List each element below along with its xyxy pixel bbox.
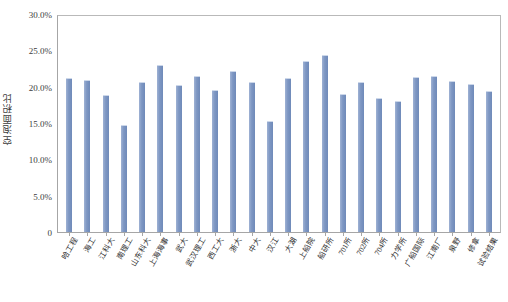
x-axis-tick-labels: 哈工程海工江科大南理工山东科大上海海事武大武汉理工西工大浙大中大汉江大湖上船院船… bbox=[57, 236, 501, 302]
bars-layer bbox=[58, 16, 500, 232]
bar-slot bbox=[188, 16, 206, 232]
bar-slot bbox=[151, 16, 169, 232]
bar-slot bbox=[224, 16, 242, 232]
bar bbox=[84, 80, 90, 232]
bar-slot bbox=[60, 16, 78, 232]
bar bbox=[66, 78, 72, 232]
bar-slot bbox=[170, 16, 188, 232]
bar bbox=[468, 84, 474, 232]
bar bbox=[194, 76, 200, 232]
bar-slot bbox=[243, 16, 261, 232]
bar-slot bbox=[261, 16, 279, 232]
y-axis-tick-label: 10.0% bbox=[29, 155, 52, 165]
bar bbox=[139, 82, 145, 232]
bar bbox=[157, 65, 163, 232]
bar-slot bbox=[316, 16, 334, 232]
bar bbox=[413, 77, 419, 232]
bar bbox=[486, 91, 492, 232]
bar bbox=[285, 78, 291, 232]
bar bbox=[212, 90, 218, 232]
bar-slot bbox=[297, 16, 315, 232]
y-axis-title-text: 空泡面积比 bbox=[1, 92, 15, 145]
bar-slot bbox=[78, 16, 96, 232]
bar bbox=[249, 82, 255, 232]
bar bbox=[449, 81, 455, 232]
bar bbox=[267, 121, 273, 232]
bar-slot bbox=[389, 16, 407, 232]
y-axis-tick-label: 30.0% bbox=[29, 10, 52, 20]
plot-area bbox=[57, 15, 501, 233]
y-axis-tick-labels: 30.0%25.0%20.0%15.0%10.0%5.0%0 bbox=[14, 0, 56, 240]
bar-slot bbox=[115, 16, 133, 232]
bar-slot bbox=[443, 16, 461, 232]
bar bbox=[103, 95, 109, 232]
bar-slot bbox=[206, 16, 224, 232]
bar-slot bbox=[97, 16, 115, 232]
bar bbox=[121, 125, 127, 232]
bar-slot bbox=[352, 16, 370, 232]
bar-slot bbox=[279, 16, 297, 232]
bar bbox=[395, 101, 401, 232]
y-axis-tick-label: 0 bbox=[48, 228, 53, 238]
bar bbox=[358, 82, 364, 232]
bar-slot bbox=[425, 16, 443, 232]
bar bbox=[322, 55, 328, 232]
bar-chart: 空泡面积比 30.0%25.0%20.0%15.0%10.0%5.0%0 哈工程… bbox=[0, 0, 508, 302]
bar bbox=[303, 61, 309, 232]
bar-slot bbox=[480, 16, 498, 232]
y-axis-tick-label: 20.0% bbox=[29, 83, 52, 93]
bar-slot bbox=[133, 16, 151, 232]
bar bbox=[340, 94, 346, 232]
bar-slot bbox=[370, 16, 388, 232]
y-axis-tick-label: 15.0% bbox=[29, 119, 52, 129]
bar-slot bbox=[407, 16, 425, 232]
y-axis-tick-label: 25.0% bbox=[29, 46, 52, 56]
bar bbox=[176, 85, 182, 232]
bar bbox=[230, 71, 236, 232]
bar bbox=[431, 76, 437, 233]
bar-slot bbox=[462, 16, 480, 232]
bar-slot bbox=[334, 16, 352, 232]
y-axis-tick-label: 5.0% bbox=[33, 192, 52, 202]
bar bbox=[376, 98, 382, 232]
